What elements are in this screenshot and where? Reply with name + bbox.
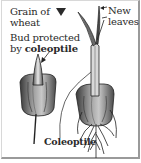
- young-seedling-drawing: [20, 51, 56, 144]
- older-seedling-drawing: [60, 6, 117, 158]
- wheat-germination-illustration: [0, 0, 141, 163]
